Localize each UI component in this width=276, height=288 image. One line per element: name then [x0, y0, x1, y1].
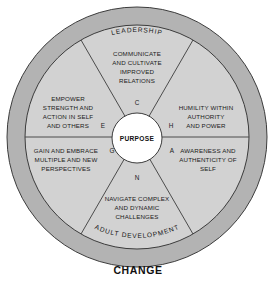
segment-letter-g: G [110, 147, 115, 154]
segment-humility-line-0: HUMILITY WITHIN [179, 104, 234, 111]
diagram-caption: CHANGE [0, 264, 276, 276]
segment-gain-line-1: MULTIPLE AND NEW [35, 156, 98, 163]
segment-communicate-line-2: IMPROVED [120, 68, 155, 75]
segment-navigate-line-0: NAVIGATE COMPLEX [105, 195, 170, 202]
hub-label: PURPOSE [120, 135, 155, 142]
segment-letter-e: E [101, 122, 105, 129]
segment-humility-line-2: AND POWER [186, 122, 226, 129]
segment-letter-n: N [135, 174, 140, 181]
segment-communicate-line-0: COMMUNICATE [113, 50, 161, 57]
segment-communicate-line-1: AND CULTIVATE [112, 59, 161, 66]
segment-gain-line-0: GAIN AND EMBRACE [34, 147, 98, 154]
segment-empower-line-1: STRENGTH AND [43, 104, 94, 111]
segment-letter-c: C [135, 99, 140, 106]
segment-empower-line-2: ACTION IN SELF [43, 113, 94, 120]
segment-letter-h: H [169, 122, 174, 129]
segment-awareness-line-1: AUTHENTICITY OF [179, 156, 237, 163]
wheel-svg: LEADERSHIP ADULT DEVELOPMENT COMMUNICATE… [0, 0, 276, 288]
segment-empower-line-3: AND OTHERS [47, 122, 89, 129]
segment-navigate-line-1: AND DYNAMIC [115, 204, 160, 211]
segment-humility-line-1: AUTHORITY [187, 113, 224, 120]
segment-navigate-line-2: CHALLENGES [115, 213, 158, 220]
segment-gain-line-2: PERSPECTIVES [41, 165, 90, 172]
segment-communicate-line-3: RELATIONS [119, 77, 155, 84]
segment-awareness-line-0: AWARENESS AND [180, 147, 236, 154]
segment-letter-a: A [170, 147, 175, 154]
segment-empower-line-0: EMPOWER [51, 95, 85, 102]
change-wheel-diagram: LEADERSHIP ADULT DEVELOPMENT COMMUNICATE… [0, 0, 276, 288]
segment-awareness-line-2: SELF [200, 165, 216, 172]
